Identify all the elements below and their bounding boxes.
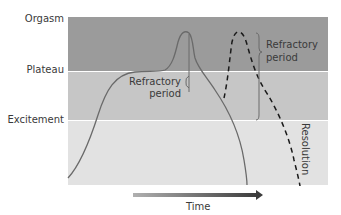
sexual-response-diagram: Refractory period Refractory period Reso… bbox=[0, 0, 341, 215]
refractory-label-2b: period bbox=[266, 52, 298, 63]
refractory-label-1b: period bbox=[149, 88, 181, 99]
refractory-label-2a: Refractory bbox=[266, 39, 318, 50]
band-excitement bbox=[68, 121, 328, 185]
time-arrow-head bbox=[256, 190, 263, 200]
resolution-label: Resolution bbox=[300, 123, 311, 175]
band-plateau bbox=[68, 72, 328, 120]
refractory-label-1a: Refractory bbox=[129, 76, 181, 87]
time-arrow-shaft bbox=[133, 193, 257, 197]
time-axis-label: Time bbox=[186, 201, 210, 212]
